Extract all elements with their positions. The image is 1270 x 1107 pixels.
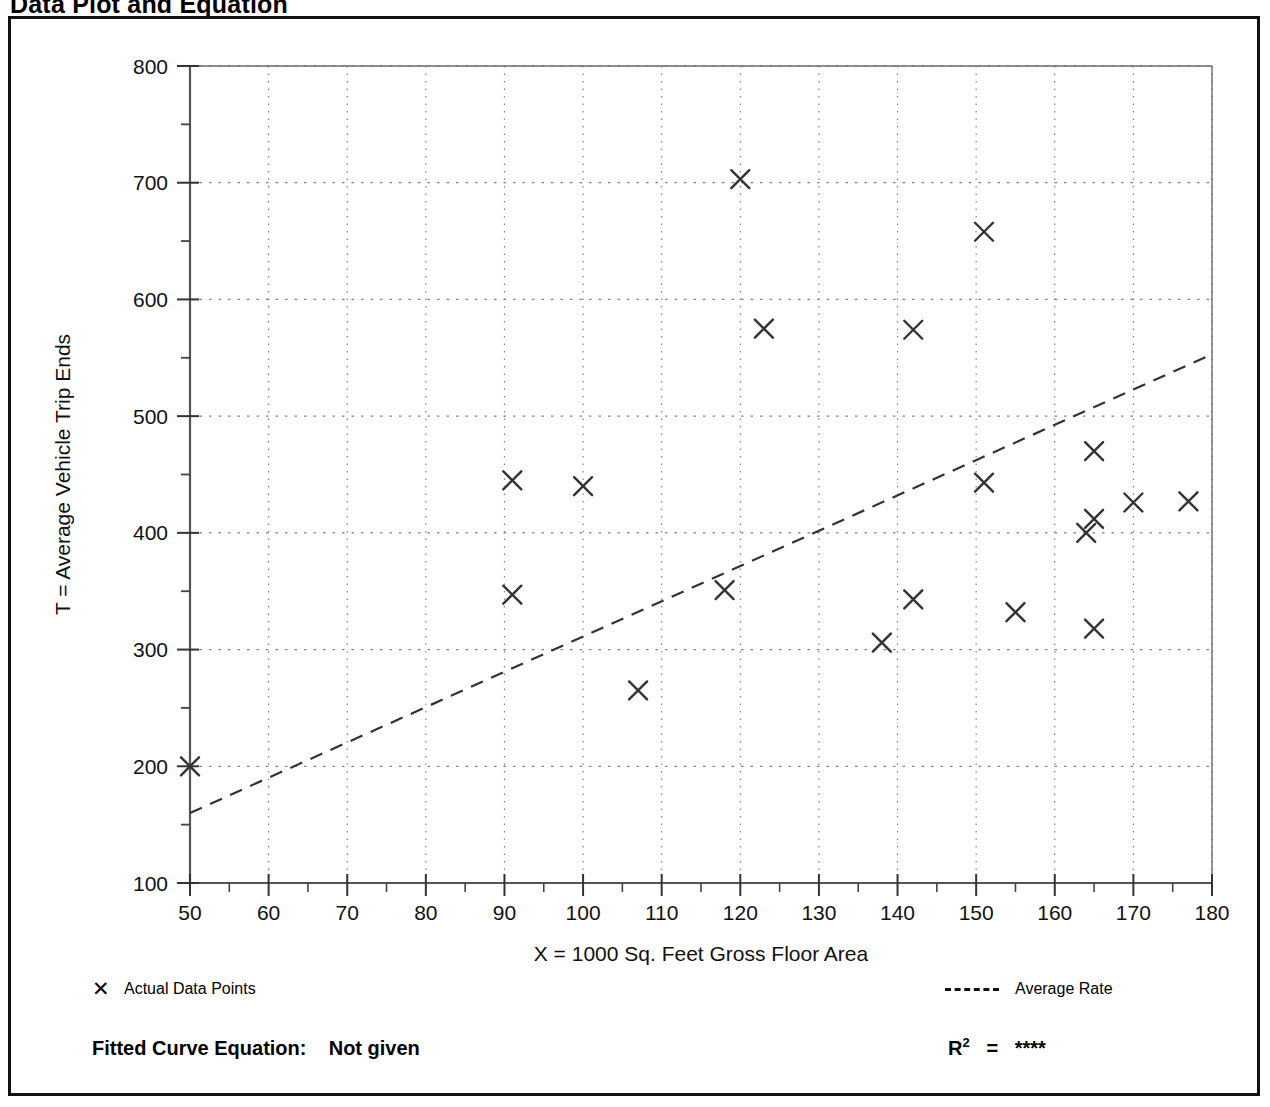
legend-label-average-rate: Average Rate [1015,980,1113,998]
data-point-marker [716,581,734,599]
x-axis-tick-label: 150 [959,901,994,924]
data-point-marker [1085,620,1103,638]
data-point-marker [503,586,521,604]
y-axis-tick-label: 100 [133,872,168,895]
chart-canvas: 1002003004005006007008005060708090100110… [0,0,1270,1107]
y-axis-title: T = Average Vehicle Trip Ends [51,334,74,615]
y-axis-tick-label: 300 [133,638,168,661]
y-axis-tick-label: 500 [133,405,168,428]
x-axis-tick-label: 170 [1116,901,1151,924]
chart-page: Data Plot and Equation 10020030040050060… [0,0,1270,1107]
legend-item-average-rate: Average Rate [945,980,1113,998]
r-squared-label: R [948,1037,962,1059]
data-point-marker [731,170,749,188]
y-axis-tick-label: 600 [133,288,168,311]
x-axis-tick-label: 160 [1037,901,1072,924]
x-axis-tick-label: 100 [566,901,601,924]
x-axis-tick-label: 110 [645,901,678,924]
y-axis-tick-label: 400 [133,521,168,544]
x-axis-tick-label: 140 [880,901,915,924]
data-point-marker [975,474,993,492]
data-point-marker [755,320,773,338]
data-point-marker [503,471,521,489]
data-point-marker [904,321,922,339]
data-point-marker [1006,603,1024,621]
x-axis-tick-label: 120 [723,901,758,924]
r-squared-exponent: 2 [962,1035,969,1050]
x-axis-tick-label: 90 [493,901,516,924]
legend-label-data-points: Actual Data Points [124,980,256,998]
x-axis-title: X = 1000 Sq. Feet Gross Floor Area [534,942,869,965]
x-axis-tick-label: 80 [414,901,437,924]
fitted-curve-equation: Fitted Curve Equation: Not given [92,1037,420,1060]
r-squared-equals: = [986,1037,998,1059]
data-point-marker [1179,492,1197,510]
data-point-marker [629,681,647,699]
fitted-curve-value: Not given [329,1037,420,1059]
x-axis-tick-label: 60 [257,901,280,924]
y-axis-tick-label: 200 [133,755,168,778]
y-axis-tick-label: 700 [133,171,168,194]
r-squared-value: **** [1015,1037,1046,1059]
x-axis-tick-label: 70 [336,901,359,924]
x-marker-icon: ✕ [92,978,110,999]
data-point-marker [904,590,922,608]
data-point-marker [1085,442,1103,460]
dashed-line-icon [945,988,999,991]
x-axis-tick-label: 130 [801,901,836,924]
y-axis-tick-label: 800 [133,55,168,78]
fitted-curve-label: Fitted Curve Equation: [92,1037,306,1059]
average-rate-line [190,354,1212,813]
legend-item-data-points: ✕ Actual Data Points [92,978,256,999]
data-point-marker [873,634,891,652]
x-axis-tick-label: 180 [1194,901,1229,924]
r-squared-readout: R2 = **** [948,1035,1046,1060]
data-point-marker [975,223,993,241]
x-axis-tick-label: 50 [178,901,201,924]
